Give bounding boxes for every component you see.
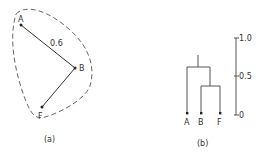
- leaf-f-label: F: [217, 118, 222, 127]
- leaf-f-dot: [219, 112, 221, 114]
- panel-b-text: A B F 1.0 0.5 0 (b): [184, 34, 252, 148]
- scale-label-05: 0.5: [239, 72, 252, 81]
- caption-b: (b): [197, 139, 208, 148]
- node-b-label: B: [79, 64, 85, 73]
- leaf-b-label: B: [198, 118, 204, 127]
- edge-b-f: [42, 68, 75, 107]
- node-f-label: F: [38, 112, 43, 121]
- node-f: [41, 106, 44, 109]
- scale-label-1: 1.0: [239, 34, 252, 43]
- leaf-b-dot: [200, 112, 202, 114]
- node-b: [74, 67, 77, 70]
- panel-a: A B F 0.6 (a): [13, 9, 92, 144]
- edge-a-b: [21, 25, 75, 68]
- caption-a: (a): [44, 135, 55, 144]
- panel-b: [187, 38, 239, 115]
- leaf-a-label: A: [184, 118, 190, 127]
- edge-weight-label: 0.6: [50, 39, 63, 48]
- scale-label-0: 0: [239, 111, 244, 120]
- node-a-label: A: [18, 15, 24, 24]
- leaf-a-dot: [186, 112, 188, 114]
- figure: A B F 0.6 (a) A B F 1.0 0.5 0 (b): [0, 0, 259, 152]
